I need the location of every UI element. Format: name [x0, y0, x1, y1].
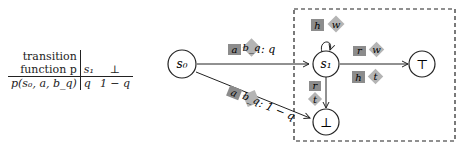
label-s0-s1: a b_q : q [228, 38, 275, 56]
label-s1-bottom: r t [308, 80, 322, 106]
svg-text:: 1 − q: : 1 − q [257, 97, 297, 123]
svg-text:: q: : q [261, 43, 275, 56]
label-s1-top-upper: r w [353, 42, 384, 58]
node-s0: s₀ [168, 50, 196, 78]
label-s0-bottom: a b_q : 1 − q [225, 81, 298, 125]
svg-text:b_q: b_q [243, 42, 261, 54]
svg-text:⊤: ⊤ [416, 57, 428, 72]
node-top: ⊤ [409, 51, 435, 77]
label-s1-top-lower: h t [352, 69, 383, 85]
svg-text:s₁: s₁ [321, 57, 332, 71]
svg-text:w: w [372, 44, 381, 55]
svg-text:⊥: ⊥ [320, 115, 332, 130]
svg-text:h: h [355, 72, 361, 83]
svg-text:a: a [232, 44, 238, 55]
node-bottom: ⊥ [313, 109, 339, 135]
svg-text:w: w [332, 19, 341, 30]
label-s1-loop: h w [311, 16, 344, 33]
svg-text:s₀: s₀ [177, 57, 188, 71]
state-diagram: s₀ s₁ ⊤ ⊥ a b_q : q a b_q : 1 − q h w r [0, 0, 465, 152]
svg-text:h: h [314, 20, 320, 31]
node-s1: s₁ [313, 51, 339, 77]
